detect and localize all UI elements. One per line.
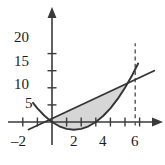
x-tick-label-4: 4 xyxy=(99,134,107,149)
y-tick-label-15: 15 xyxy=(14,54,29,69)
y-tick-label-5: 5 xyxy=(25,96,33,111)
y-axis-arrow-icon xyxy=(48,7,57,18)
x-tick-label-6: 6 xyxy=(131,134,139,149)
y-tick-label-10: 10 xyxy=(14,77,29,92)
math-figure: 20 15 10 5 –2 2 4 6 xyxy=(0,0,165,165)
x-axis-arrow-icon xyxy=(152,118,163,127)
x-tick-label-2: 2 xyxy=(70,134,78,149)
x-tick-label-minus2: –2 xyxy=(11,134,26,149)
shaded-region xyxy=(48,84,125,129)
y-tick-label-20: 20 xyxy=(14,30,29,45)
